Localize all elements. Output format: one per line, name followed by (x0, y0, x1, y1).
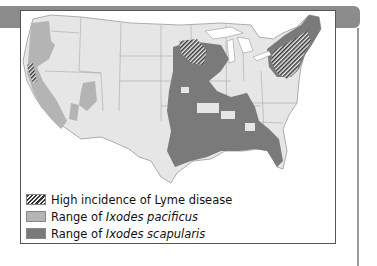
dark-gray-swatch-icon (26, 228, 46, 239)
legend-label-prefix: Range of (51, 227, 102, 241)
legend-label: High incidence of Lyme disease (51, 193, 232, 207)
hatch-swatch-icon (26, 194, 46, 205)
legend-item-ixodes-pacificus: Range of Ixodes pacificus (26, 208, 232, 225)
legend-label-species: Ixodes pacificus (106, 210, 198, 224)
map-figure-panel: High incidence of Lyme disease Range of … (20, 10, 336, 244)
legend-label-species: Ixodes scapularis (106, 227, 205, 241)
legend-label-prefix: Range of (51, 210, 102, 224)
right-rule (357, 28, 359, 266)
legend-item-lyme-incidence: High incidence of Lyme disease (26, 191, 232, 208)
us-map (21, 11, 335, 191)
legend-item-ixodes-scapularis: Range of Ixodes scapularis (26, 225, 232, 242)
light-gray-swatch-icon (26, 211, 46, 222)
map-legend: High incidence of Lyme disease Range of … (26, 191, 232, 242)
